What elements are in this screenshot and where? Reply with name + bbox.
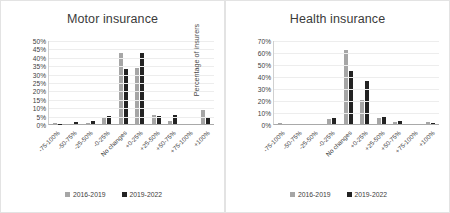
gridline: [49, 100, 214, 101]
bar: [426, 122, 430, 124]
y-axis-tick-label: 60%: [258, 50, 271, 57]
bar: [69, 124, 73, 125]
bar: [58, 124, 62, 125]
bar: [278, 123, 282, 124]
bar: [327, 119, 331, 124]
x-axis-tick: -25-50%: [306, 126, 323, 172]
legend-swatch-icon: [347, 192, 352, 197]
gridline: [274, 65, 439, 66]
y-axis-tick-label: 70%: [258, 38, 271, 45]
y-axis-tick-label: 30%: [258, 86, 271, 93]
bar: [53, 123, 57, 124]
gridline: [49, 49, 214, 50]
y-axis-tick-label: 10%: [258, 110, 271, 117]
y-axis-tick-label: 0%: [36, 122, 46, 129]
gridline: [274, 77, 439, 78]
bar: [398, 121, 402, 124]
y-axis-tick-label: 50%: [258, 62, 271, 69]
x-axis-tick-label: -75-100%: [262, 129, 286, 153]
gridline: [49, 58, 214, 59]
y-axis-ticks: 0%10%20%30%40%50%60%70%: [242, 41, 271, 125]
plot-wrapper: Percentage of insurers 0%10%20%30%40%50%…: [226, 1, 450, 213]
bar: [74, 122, 78, 124]
gridline: [274, 89, 439, 90]
bar: [140, 53, 144, 124]
bar: [206, 117, 210, 124]
bar: [431, 123, 435, 124]
plot-area: [273, 41, 439, 125]
gridline: [49, 117, 214, 118]
legend-label: 2019-2022: [130, 191, 163, 198]
bar: [393, 122, 397, 124]
gridline: [49, 75, 214, 76]
gridline: [274, 113, 439, 114]
y-axis-tick-label: 15%: [33, 96, 46, 103]
bar: [91, 121, 95, 124]
bar: [377, 118, 381, 124]
x-axis-tick-label: -75-100%: [37, 129, 61, 153]
x-axis-tick: +75-100%: [181, 126, 198, 172]
bar: [119, 53, 123, 124]
y-axis-tick-label: 10%: [33, 105, 46, 112]
legend-item[interactable]: 2019-2022: [122, 191, 163, 198]
bar: [332, 118, 336, 124]
y-axis-tick-label: 45%: [33, 46, 46, 53]
y-axis-tick-label: 5%: [36, 113, 46, 120]
gridline: [274, 41, 439, 42]
legend-item[interactable]: 2016-2019: [65, 191, 106, 198]
y-axis-tick-label: 25%: [33, 80, 46, 87]
y-axis-tick-label: 40%: [258, 74, 271, 81]
y-axis-tick-label: 20%: [33, 88, 46, 95]
x-axis-ticks: -75-100%-50-75%-25-50%-0-25%No changes+0…: [48, 126, 214, 172]
bar: [365, 81, 369, 124]
gridline: [49, 41, 214, 42]
x-axis-tick: +100%: [197, 126, 214, 172]
bar: [86, 123, 90, 124]
gridline: [49, 83, 214, 84]
bar: [349, 71, 353, 124]
gridline: [49, 108, 214, 109]
y-axis-tick-label: 0%: [261, 122, 271, 129]
x-axis-tick: +100%: [422, 126, 439, 172]
figure-root: Motor insurance Percentage of insurers 0…: [0, 0, 450, 213]
y-axis-tick-label: 30%: [33, 71, 46, 78]
gridline: [49, 91, 214, 92]
bar: [168, 121, 172, 124]
bar: [360, 100, 364, 124]
gridline: [274, 101, 439, 102]
legend-label: 2016-2019: [73, 191, 106, 198]
x-axis-ticks: -75-100%-50-75%-25-50%-0-25%No changes+0…: [273, 126, 439, 172]
legend-item[interactable]: 2016-2019: [290, 191, 331, 198]
bar: [102, 118, 106, 124]
y-axis-tick-label: 20%: [258, 98, 271, 105]
x-axis-tick: -25-50%: [81, 126, 98, 172]
y-axis-tick-label: 40%: [33, 54, 46, 61]
y-axis-tick-label: 50%: [33, 38, 46, 45]
plot-area: [48, 41, 214, 125]
y-axis-ticks: 0%5%10%15%20%25%30%35%40%45%50%: [17, 41, 46, 125]
legend-label: 2019-2022: [355, 191, 388, 198]
bar: [135, 68, 139, 124]
gridline: [49, 66, 214, 67]
y-axis-label: Percentage of insurers: [192, 17, 202, 103]
x-axis-tick: +75-100%: [406, 126, 423, 172]
legend-swatch-icon: [65, 192, 70, 197]
chart-panel-health: Health insurance Percentage of insurers …: [225, 0, 450, 213]
y-axis-tick-label: 35%: [33, 63, 46, 70]
legend-swatch-icon: [290, 192, 295, 197]
legend-label: 2016-2019: [298, 191, 331, 198]
legend-item[interactable]: 2019-2022: [347, 191, 388, 198]
legend-swatch-icon: [122, 192, 127, 197]
chart-legend: 2016-20192019-2022: [226, 191, 450, 198]
gridline: [274, 53, 439, 54]
bar: [382, 117, 386, 124]
chart-legend: 2016-20192019-2022: [1, 191, 226, 198]
